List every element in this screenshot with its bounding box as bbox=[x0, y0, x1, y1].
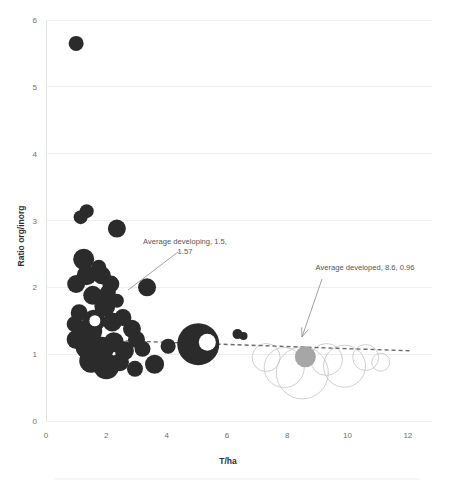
y-tick-label: 6 bbox=[33, 16, 38, 25]
x-tick-label: 8 bbox=[285, 431, 290, 440]
x-tick-label: 12 bbox=[403, 431, 412, 440]
y-tick-label: 0 bbox=[33, 417, 38, 426]
data-bubble bbox=[135, 341, 151, 357]
x-tick-label: 6 bbox=[225, 431, 230, 440]
data-bubble bbox=[110, 294, 124, 308]
data-bubble bbox=[91, 260, 106, 275]
x-tick-label: 10 bbox=[343, 431, 352, 440]
x-tick-label: 0 bbox=[44, 431, 49, 440]
x-tick-label: 4 bbox=[164, 431, 169, 440]
y-tick-label: 2 bbox=[33, 283, 38, 292]
highlight-bubble-layer bbox=[295, 346, 316, 367]
data-bubble bbox=[67, 275, 85, 293]
data-bubble bbox=[240, 332, 248, 340]
bubble-knockout bbox=[199, 334, 216, 351]
data-bubble bbox=[138, 278, 156, 296]
data-bubble bbox=[127, 361, 143, 377]
data-bubble bbox=[74, 210, 88, 224]
y-axis-title: Ratio org/inorg bbox=[16, 206, 26, 267]
data-bubble bbox=[108, 220, 126, 238]
chart-canvas: 024681012 0123456 Average developing, 1.… bbox=[0, 0, 449, 483]
y-tick-label: 3 bbox=[33, 217, 38, 226]
data-bubble bbox=[145, 355, 164, 374]
y-tick-label: 5 bbox=[33, 83, 38, 92]
y-tick-label: 4 bbox=[33, 150, 38, 159]
average-developed-bubble bbox=[295, 346, 316, 367]
x-axis-title: T/ha bbox=[219, 456, 237, 466]
y-tick-label: 1 bbox=[33, 350, 38, 359]
annotation-label: Average developed, 8.6, 0.96 bbox=[315, 263, 414, 272]
bubble-knockout bbox=[89, 315, 100, 326]
data-bubble bbox=[111, 353, 129, 371]
data-bubble bbox=[69, 36, 84, 51]
bubble-chart: 024681012 0123456 Average developing, 1.… bbox=[0, 0, 449, 483]
data-bubble bbox=[161, 339, 176, 354]
x-tick-label: 2 bbox=[104, 431, 109, 440]
